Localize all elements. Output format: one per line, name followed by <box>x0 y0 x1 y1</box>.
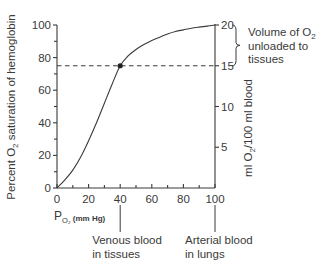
dissociation-curve <box>57 25 215 188</box>
y-left-tick-label-40: 40 <box>38 117 51 129</box>
arterial-label-line-2: in lungs <box>185 248 225 260</box>
x-tick-label-0: 0 <box>54 193 60 205</box>
arterial-label-line-1: Arterial blood <box>185 234 253 246</box>
x-label-unit: (mm Hg) <box>73 214 106 223</box>
y-right-label-pre: ml O <box>242 153 254 177</box>
y-axis-right-label: ml O2/100 ml blood <box>242 79 257 177</box>
y-right-tick-label-5: 5 <box>221 141 227 153</box>
y-left-label-pre: Percent O <box>5 148 17 200</box>
y-left-tick-label-100: 100 <box>32 19 51 31</box>
x-tick-label-40: 40 <box>114 193 127 205</box>
y-right-tick-label-10: 10 <box>221 101 234 113</box>
brace-label-line-1: Volume of O2 <box>248 26 316 41</box>
y-right-tick-label-15: 15 <box>221 60 234 72</box>
venous-label-line-1: Venous blood <box>92 234 162 246</box>
y-right-tick-label-20: 20 <box>221 19 234 31</box>
ticks: 0204060801000204060801005101520 <box>32 19 234 205</box>
x-tick-label-80: 80 <box>177 193 190 205</box>
y-left-label-post: saturation of hemoglobin <box>5 14 17 143</box>
brace-label-line-1-text: Volume of O <box>248 26 311 38</box>
x-tick-label-100: 100 <box>205 193 224 205</box>
brace-label-line-2: unloaded to <box>248 40 308 52</box>
venous-label-line-2: in tissues <box>92 248 140 260</box>
y-left-tick-label-80: 80 <box>38 52 51 64</box>
brace-label-line-3: tissues <box>248 53 284 65</box>
y-axis-left-label: Percent O2 saturation of hemoglobin <box>5 14 20 199</box>
x-label-sub: O₂ <box>62 216 71 225</box>
axes <box>57 24 215 188</box>
x-axis-label: PO₂(mm Hg) <box>54 209 106 225</box>
x-label-p: P <box>54 209 62 223</box>
marker-point-40-75 <box>118 63 123 68</box>
x-tick-label-20: 20 <box>82 193 95 205</box>
y-left-tick-label-20: 20 <box>38 149 51 161</box>
brace-label-sub: 2 <box>311 32 316 41</box>
y-right-label-post: /100 ml blood <box>242 79 254 148</box>
y-left-tick-label-0: 0 <box>45 182 51 194</box>
oxygen-dissociation-chart: 0204060801000204060801005101520 Percent … <box>0 0 319 269</box>
y-left-tick-label-60: 60 <box>38 84 51 96</box>
x-tick-label-60: 60 <box>145 193 158 205</box>
